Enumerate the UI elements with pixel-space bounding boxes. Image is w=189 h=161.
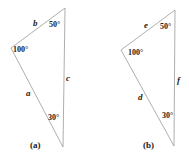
side-label-c: c <box>66 73 70 83</box>
angle-bottom-a: 30° <box>48 113 59 122</box>
side-label-d: d <box>138 92 143 102</box>
triangle-diagram: b 50° 100° c a 30° (a) e 50° 100° f d 30… <box>0 0 189 161</box>
angle-top-a: 50° <box>49 20 60 29</box>
angle-left-a: 100° <box>13 45 28 54</box>
angle-left-b: 100° <box>128 48 143 57</box>
angle-top-b: 50° <box>160 22 171 31</box>
side-label-a: a <box>26 88 31 98</box>
side-label-f: f <box>177 75 181 85</box>
triangle-a: b 50° 100° c a 30° (a) <box>11 8 70 150</box>
caption-b: (b) <box>143 140 154 150</box>
triangle-b: e 50° 100° f d 30° (b) <box>121 10 181 150</box>
side-label-b: b <box>33 18 38 28</box>
side-label-e: e <box>144 20 148 30</box>
angle-bottom-b: 30° <box>162 111 173 120</box>
caption-a: (a) <box>30 140 41 150</box>
